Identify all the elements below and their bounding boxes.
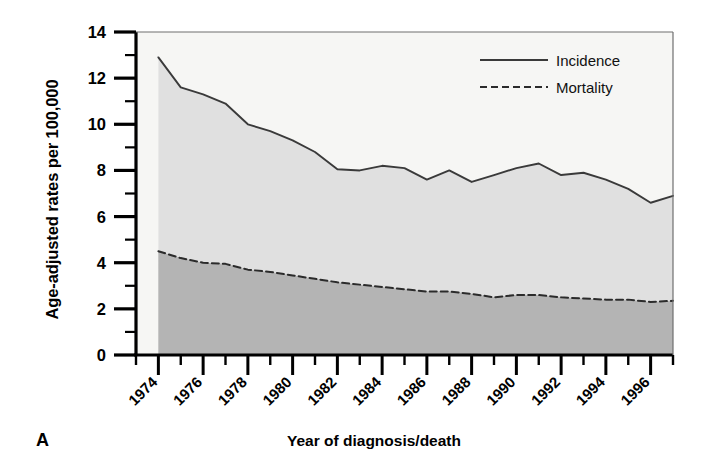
x-tick-label: 1974 — [125, 373, 161, 409]
legend-label-incidence: Incidence — [556, 52, 620, 69]
y-tick-label: 0 — [97, 346, 106, 364]
figure-panel-a: Age-adjusted rates per 100,000 Year of d… — [0, 0, 714, 466]
x-tick-label: 1990 — [483, 373, 519, 409]
x-tick-label: 1986 — [393, 373, 429, 409]
y-axis-ticks: 02468101214 — [88, 23, 136, 364]
x-tick-label: 1992 — [528, 373, 564, 409]
y-tick-label: 12 — [88, 69, 106, 87]
x-tick-label: 1982 — [304, 373, 340, 409]
x-tick-label: 1984 — [349, 373, 385, 409]
x-tick-label: 1980 — [259, 373, 295, 409]
y-tick-label: 4 — [97, 254, 107, 272]
y-tick-label: 6 — [97, 208, 106, 226]
y-tick-label: 2 — [97, 300, 106, 318]
y-tick-label: 10 — [88, 115, 106, 133]
x-tick-label: 1978 — [214, 373, 250, 409]
x-axis-ticks: 1974197619781980198219841986198819901992… — [125, 355, 673, 409]
x-tick-label: 1976 — [170, 373, 206, 409]
x-tick-label: 1994 — [572, 373, 608, 409]
y-tick-label: 14 — [88, 23, 107, 41]
x-tick-label: 1996 — [617, 373, 653, 409]
y-tick-label: 8 — [97, 161, 106, 179]
legend-label-mortality: Mortality — [556, 79, 613, 96]
chart-plot-area: 02468101214 1974197619781980198219841986… — [0, 0, 714, 466]
x-tick-label: 1988 — [438, 373, 474, 409]
